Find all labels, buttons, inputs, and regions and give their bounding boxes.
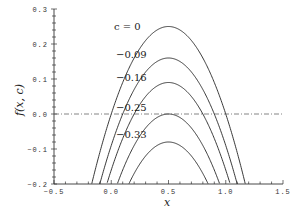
y-tick-label: 0.3	[32, 6, 48, 14]
curve-label-c1: −0.09	[116, 49, 147, 60]
curves	[92, 27, 245, 185]
curve-label-c2: −0.16	[116, 72, 147, 83]
y-tick-label: 0.0	[32, 111, 48, 119]
x-tick-label: 0.5	[161, 188, 177, 196]
axes: −0.50.00.51.01.50.30.20.10.0−0.1−0.2	[27, 6, 291, 197]
y-tick-label: −0.1	[27, 146, 48, 154]
curve-label-c4: −0.33	[116, 129, 147, 140]
x-tick-label: 0.0	[103, 188, 119, 196]
x-tick-label: 1.0	[218, 188, 234, 196]
curve-label-c0: c = 0	[114, 21, 141, 32]
curve-label-c3: −0.25	[116, 102, 147, 113]
y-tick-label: −0.2	[27, 181, 48, 189]
x-axis-label: x	[164, 196, 171, 209]
x-tick-label: 1.5	[275, 188, 291, 196]
curve-line	[129, 142, 208, 184]
y-axis-label: f(x, c)	[13, 84, 26, 117]
chart: −0.50.00.51.01.50.30.20.10.0−0.1−0.2 c =…	[0, 0, 306, 213]
y-tick-label: 0.1	[32, 76, 48, 84]
y-tick-label: 0.2	[32, 41, 48, 49]
x-tick-label: −0.5	[44, 188, 65, 196]
curve-line	[118, 114, 220, 183]
